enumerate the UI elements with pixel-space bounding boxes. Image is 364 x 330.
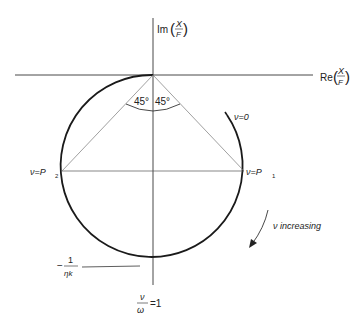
line-to-p1	[153, 75, 244, 171]
svg-text:X: X	[337, 66, 345, 76]
svg-text:X: X	[175, 19, 183, 29]
svg-text:F: F	[176, 30, 182, 39]
response-circle	[61, 75, 243, 257]
imaginary-axis-label: Im ( X F )	[157, 19, 188, 39]
svg-text:Im: Im	[157, 24, 168, 35]
nu-zero-label: ν=0	[234, 112, 249, 122]
svg-text:1: 1	[272, 173, 276, 179]
svg-text:ν=P: ν=P	[246, 167, 262, 177]
line-to-p2	[62, 75, 153, 171]
svg-text:−: −	[57, 260, 63, 271]
svg-text:): )	[345, 68, 350, 85]
svg-text:=1: =1	[150, 298, 162, 309]
svg-text:): )	[183, 20, 188, 37]
angle-label-left: 45°	[134, 96, 149, 107]
resonance-label: ν ω =1	[137, 292, 162, 315]
svg-text:2: 2	[55, 173, 59, 179]
nu-zero-tick	[225, 112, 227, 115]
svg-text:ν: ν	[140, 292, 145, 302]
svg-text:1: 1	[68, 255, 73, 265]
direction-arrow	[252, 210, 268, 244]
nyquist-diagram: Im ( X F ) Re ( X F ) 45° 45° ν=0 ν=P 1 …	[0, 0, 364, 330]
svg-text:ν=P: ν=P	[30, 167, 46, 177]
min-value-label: − 1 ηk	[57, 255, 78, 278]
arrow-head-icon	[249, 239, 257, 248]
svg-text:ηk: ηk	[64, 269, 73, 278]
min-value-line	[82, 266, 140, 267]
p1-label: ν=P 1	[246, 167, 276, 179]
svg-text:Re: Re	[320, 72, 333, 83]
p2-label: ν=P 2	[30, 167, 59, 179]
svg-text:(: (	[170, 20, 175, 37]
angle-label-right: 45°	[155, 96, 170, 107]
svg-text:F: F	[338, 78, 344, 87]
direction-label: ν increasing	[273, 221, 321, 231]
svg-text:ω: ω	[137, 305, 144, 315]
real-axis-label: Re ( X F )	[320, 66, 350, 87]
